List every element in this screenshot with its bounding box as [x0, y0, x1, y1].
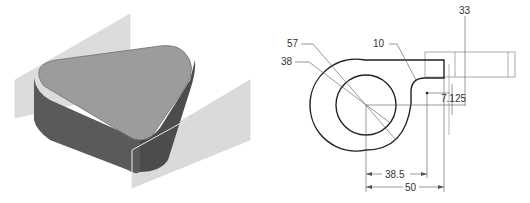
dim-57-label: 57	[287, 38, 299, 49]
2d-sketch-view: 33 7.125 57 38 10 38.5 50	[265, 0, 530, 203]
tab-point	[426, 92, 429, 95]
dim-38-label: 38	[281, 56, 293, 67]
dim-50-arrow-right	[438, 185, 444, 189]
dim-10-label: 10	[373, 38, 385, 49]
dim-385-arrow-right	[421, 172, 427, 176]
3d-model-view	[0, 0, 265, 203]
3d-model-svg	[0, 0, 265, 203]
sketch-svg: 33 7.125 57 38 10 38.5 50	[265, 0, 530, 203]
dim-385-arrow-left	[366, 172, 372, 176]
dim-38-line	[309, 62, 389, 122]
dim-33-label: 33	[459, 5, 471, 16]
dim-50-label: 50	[405, 182, 417, 193]
dim-385-label: 38.5	[385, 169, 405, 180]
tab-reference-rect	[425, 52, 515, 77]
dim-10-line	[397, 44, 416, 80]
dim-7125-label: 7.125	[441, 93, 466, 104]
dim-50-arrow-left	[366, 185, 372, 189]
dim-57-line	[313, 44, 396, 140]
